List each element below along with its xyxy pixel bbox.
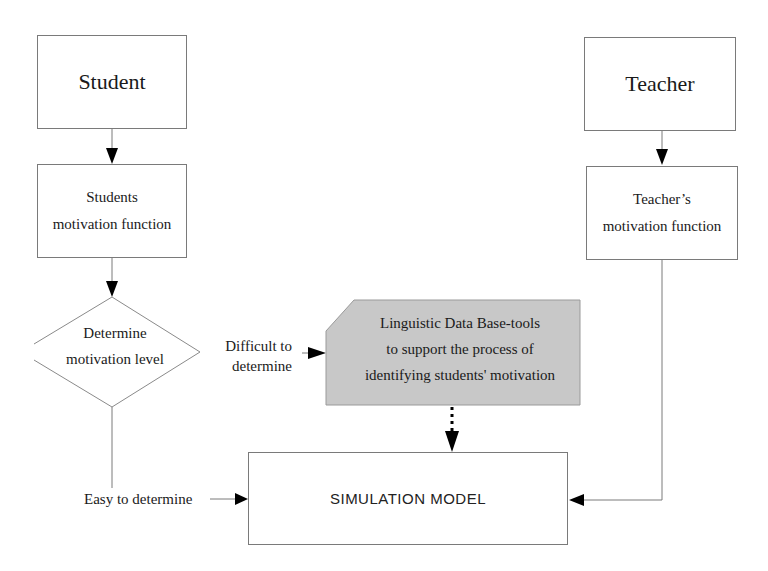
students-motivation-box: Students motivation function <box>37 164 187 258</box>
student-box: Student <box>37 35 187 129</box>
students-motivation-line1: Students <box>86 184 138 211</box>
arrowhead-icon <box>569 494 584 506</box>
difficult-line1: Difficult to <box>208 336 292 356</box>
arrowhead-icon <box>656 149 668 165</box>
teacher-box: Teacher <box>584 37 736 131</box>
connector-teacher-to-simulation <box>582 259 662 500</box>
linguistic-db-line3: identifying students' motivation <box>340 362 580 388</box>
linguistic-db-text: Linguistic Data Base-tools to support th… <box>340 310 580 388</box>
arrowhead-icon <box>106 148 118 164</box>
difficult-label: Difficult to determine <box>208 336 292 376</box>
arrowhead-icon <box>308 347 326 359</box>
decision-text: Determine motivation level <box>40 320 190 372</box>
student-label: Student <box>78 69 145 95</box>
figure-caption-clipped <box>16 563 756 571</box>
arrowhead-icon <box>445 431 459 452</box>
teachers-motivation-line1: Teacher’s <box>633 186 691 213</box>
difficult-line2: determine <box>208 356 292 376</box>
easy-label: Easy to determine <box>84 489 192 509</box>
flowchart: Student Students motivation function Det… <box>0 0 768 571</box>
decision-line2: motivation level <box>40 346 190 372</box>
arrowhead-icon <box>106 281 118 297</box>
simulation-model-label-wrap: SIMULATION MODEL <box>248 452 568 545</box>
decision-line1: Determine <box>40 320 190 346</box>
students-motivation-line2: motivation function <box>53 211 172 238</box>
arrowhead-icon <box>235 493 248 505</box>
linguistic-db-line1: Linguistic Data Base-tools <box>340 310 580 336</box>
teacher-label: Teacher <box>625 71 694 97</box>
linguistic-db-line2: to support the process of <box>340 336 580 362</box>
teachers-motivation-line2: motivation function <box>603 213 722 240</box>
simulation-model-label: SIMULATION MODEL <box>330 490 486 507</box>
teachers-motivation-box: Teacher’s motivation function <box>586 166 738 260</box>
